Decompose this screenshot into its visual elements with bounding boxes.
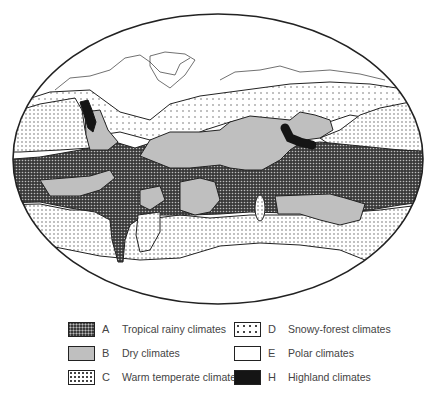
- swatch-highland: [234, 370, 261, 385]
- swatch-polar: [234, 346, 261, 361]
- legend-item-snowy-forest: D Snowy-forest climates: [234, 321, 391, 337]
- legend-item-highland: H Highland climates: [234, 369, 371, 385]
- legend-code: E: [268, 347, 282, 359]
- legend-code: A: [102, 323, 116, 335]
- legend-label: Dry climates: [122, 347, 180, 359]
- swatch-warm-temperate: [68, 370, 95, 385]
- legend-label: Highland climates: [288, 371, 371, 383]
- legend-item-warm-temperate: C Warm temperate climates: [68, 369, 241, 385]
- swatch-snowy-forest: [234, 322, 261, 337]
- swatch-tropical-rainy: [68, 322, 95, 337]
- legend-code: C: [102, 371, 116, 383]
- swatch-dry: [68, 346, 95, 361]
- legend-label: Polar climates: [288, 347, 354, 359]
- legend-label: Tropical rainy climates: [122, 323, 226, 335]
- legend-item-tropical-rainy: A Tropical rainy climates: [68, 321, 226, 337]
- legend-code: B: [102, 347, 116, 359]
- legend-item-dry: B Dry climates: [68, 345, 180, 361]
- legend-code: D: [268, 323, 282, 335]
- world-climate-map: [0, 0, 437, 310]
- legend-label: Snowy-forest climates: [288, 323, 391, 335]
- legend-label: Warm temperate climates: [122, 371, 241, 383]
- legend-code: H: [268, 371, 282, 383]
- legend-item-polar: E Polar climates: [234, 345, 354, 361]
- madagascar: [255, 195, 265, 221]
